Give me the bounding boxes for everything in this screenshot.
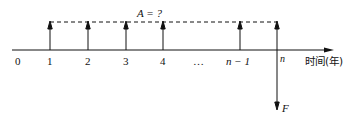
future-value-label: F [282,103,289,114]
cash-flow-diagram [0,0,354,121]
annuity-label: A = ? [137,8,162,19]
downward-arrow-f [275,50,279,110]
tick-label-ellipsis: … [193,56,204,67]
tick-label-3: 3 [123,56,129,67]
upward-arrows [48,21,279,50]
axis-label: 时间(年) [305,56,343,67]
tick-label-0: 0 [15,56,21,67]
tick-label-n: n [280,54,285,64]
tick-label-1: 1 [47,56,53,67]
axis-arrowhead-icon [324,48,334,53]
tick-label-4: 4 [160,56,166,67]
tick-label-n-minus-1: n − 1 [226,56,250,67]
tick-label-2: 2 [85,56,91,67]
